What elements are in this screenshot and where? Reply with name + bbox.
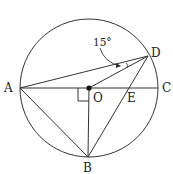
angle-label: 15°	[93, 36, 112, 48]
label-b: B	[83, 161, 92, 174]
label-o: O	[93, 91, 103, 105]
segment-bd	[88, 56, 148, 157]
segment-ad	[20, 56, 148, 88]
geometry-diagram: 15° A B C D E O	[0, 0, 173, 174]
label-a: A	[3, 81, 13, 95]
segment-ob	[88, 88, 89, 157]
label-c: C	[162, 81, 171, 95]
label-e: E	[127, 91, 136, 105]
segment-od	[89, 56, 148, 88]
center-point-o	[86, 85, 91, 90]
label-d: D	[151, 46, 161, 60]
